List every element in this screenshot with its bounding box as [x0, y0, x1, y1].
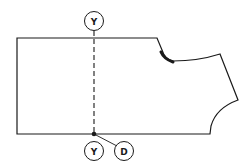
neckline-thick-marking — [161, 52, 173, 62]
point-dot — [92, 132, 97, 137]
pattern-diagram: Y Y D — [0, 0, 252, 166]
top-marker-y: Y — [85, 12, 104, 31]
pattern-piece-outline — [17, 38, 238, 134]
bottom-marker-label: Y — [90, 147, 98, 157]
marker-d: D — [115, 142, 134, 161]
bottom-marker-y: Y — [85, 142, 104, 161]
marker-d-label: D — [120, 147, 127, 157]
top-marker-label: Y — [90, 17, 98, 27]
